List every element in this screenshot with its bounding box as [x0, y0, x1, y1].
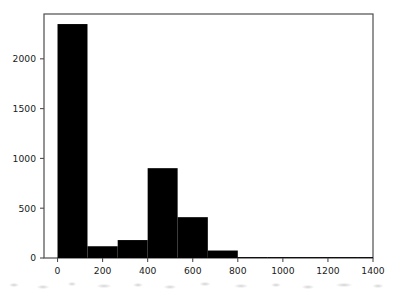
histogram-bar [58, 24, 88, 258]
x-axis: 0200400600800100012001400 [55, 258, 385, 276]
histogram-bar [178, 217, 208, 258]
y-tick-label: 2000 [13, 53, 37, 64]
y-axis: 0500100015002000 [13, 53, 44, 263]
x-tick-label: 400 [139, 265, 157, 276]
histogram-bar [298, 257, 328, 258]
y-tick-label: 1500 [13, 103, 37, 114]
histogram-plot: 0200400600800100012001400 05001000150020… [0, 0, 398, 301]
x-tick-label: 1400 [361, 265, 385, 276]
y-tick-label: 0 [30, 252, 36, 263]
x-tick-label: 1000 [271, 265, 295, 276]
histogram-bar [328, 257, 358, 258]
x-tick-label: 200 [94, 265, 112, 276]
axes-frame [44, 14, 373, 258]
x-tick-label: 800 [229, 265, 247, 276]
figure-canvas: 0200400600800100012001400 05001000150020… [0, 0, 398, 301]
y-tick-label: 500 [18, 203, 36, 214]
histogram-bar [358, 257, 373, 258]
y-tick-label: 1000 [13, 153, 37, 164]
histogram-bar [87, 246, 117, 258]
plot-area-border [44, 14, 373, 258]
x-tick-label: 600 [184, 265, 202, 276]
histogram-bar [238, 257, 268, 258]
x-tick-label: 1200 [316, 265, 340, 276]
histogram-bar [268, 257, 298, 258]
histogram-bar [148, 168, 178, 258]
x-tick-label: 0 [55, 265, 61, 276]
histogram-bar [208, 251, 238, 258]
histogram-bar [118, 240, 148, 258]
